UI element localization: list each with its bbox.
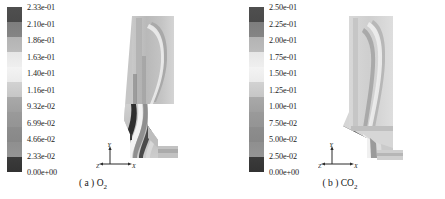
panel-co2: 2.50e-01 2.25e-01 2.00e-01 1.75e-01 1.50…	[223, 0, 445, 199]
colorbar-tick-label: 7.50e-02	[269, 118, 297, 127]
figure-contour-pair: 2.33e-01 2.10e-01 1.86e-01 1.63e-01 1.40…	[0, 0, 445, 199]
colorbar-tick-label: 1.86e-01	[27, 36, 55, 45]
colorbar-co2: 2.50e-01 2.25e-01 2.00e-01 1.75e-01 1.50…	[249, 7, 321, 172]
colorbar-tick-label: 2.10e-01	[27, 19, 55, 28]
colorbar-tick-label: 1.50e-01	[269, 69, 297, 78]
colorbar-tick-label: 2.50e-02	[269, 151, 297, 160]
axis-triad-icon: Y Z X	[318, 142, 360, 172]
colorbar-tick-label: 6.99e-02	[27, 118, 55, 127]
colorbar-tick-label: 5.00e-02	[269, 135, 297, 144]
colorbar-tick-label: 1.25e-01	[269, 85, 297, 94]
colorbar-tick-label: 1.40e-01	[27, 69, 55, 78]
colorbar-tick-label: 1.00e-01	[269, 102, 297, 111]
axis-label-x: X	[131, 163, 136, 169]
colorbar-tick-label: 1.16e-01	[27, 85, 55, 94]
colorbar-tick-label: 1.75e-01	[269, 52, 297, 61]
colorbar-strip-co2	[249, 7, 264, 172]
caption-subscript: 2	[104, 183, 108, 191]
colorbar-tick-label: 9.32e-02	[27, 102, 55, 111]
colorbar-labels-o2: 2.33e-01 2.10e-01 1.86e-01 1.63e-01 1.40…	[27, 7, 79, 172]
axis-label-y: Y	[330, 142, 334, 148]
axis-triad-icon: Y Z X	[96, 142, 138, 172]
colorbar-o2: 2.33e-01 2.10e-01 1.86e-01 1.63e-01 1.40…	[7, 7, 79, 172]
axis-triad-co2: Y Z X	[318, 142, 360, 172]
caption-prefix: ( a )	[79, 178, 94, 188]
colorbar-tick-label: 2.25e-01	[269, 19, 297, 28]
colorbar-tick-label: 0.00e+00	[27, 168, 57, 177]
caption-o2: ( a ) O2	[0, 177, 204, 193]
axis-label-x: X	[353, 163, 358, 169]
caption-species: O	[97, 178, 104, 188]
caption-subscript: 2	[354, 183, 358, 191]
colorbar-tick-label: 2.00e-01	[269, 36, 297, 45]
colorbar-tick-label: 0.00e+00	[269, 168, 299, 177]
colorbar-tick-label: 2.50e-01	[269, 3, 297, 12]
colorbar-tick-label: 1.63e-01	[27, 52, 55, 61]
caption-species: CO	[341, 178, 354, 188]
caption-co2: ( b ) CO2	[229, 177, 445, 193]
colorbar-tick-label: 2.33e-01	[27, 3, 55, 12]
caption-prefix: ( b )	[323, 178, 339, 188]
colorbar-tick-label: 4.66e-02	[27, 135, 55, 144]
colorbar-strip-o2	[7, 7, 22, 172]
axis-triad-o2: Y Z X	[96, 142, 138, 172]
panel-o2: 2.33e-01 2.10e-01 1.86e-01 1.63e-01 1.40…	[0, 0, 222, 199]
colorbar-labels-co2: 2.50e-01 2.25e-01 2.00e-01 1.75e-01 1.50…	[269, 7, 321, 172]
axis-label-y: Y	[108, 142, 112, 148]
colorbar-tick-label: 2.33e-02	[27, 151, 55, 160]
